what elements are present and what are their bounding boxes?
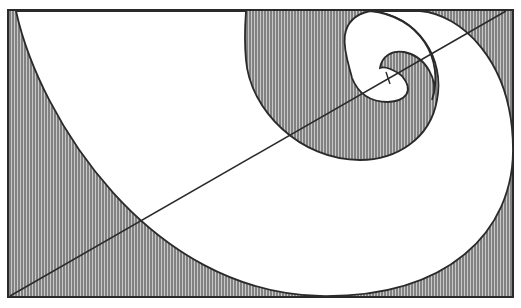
golden-spiral-diagram: [0, 0, 521, 308]
